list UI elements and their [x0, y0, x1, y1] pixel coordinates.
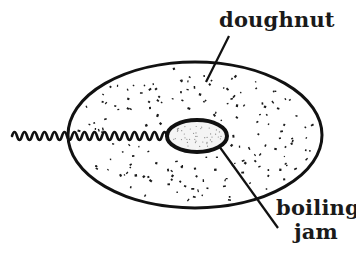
wavy-line: [12, 132, 167, 140]
boiling-jam-label-line2: jam: [276, 220, 356, 244]
jam-leader-line: [219, 146, 278, 228]
doughnut-label: doughnut: [219, 8, 335, 32]
boiling-jam-pocket: [167, 120, 227, 152]
boiling-jam-label: boiling jam: [276, 196, 356, 244]
doughnut-leader-line: [206, 36, 229, 82]
boiling-jam-label-line1: boiling: [276, 196, 356, 220]
